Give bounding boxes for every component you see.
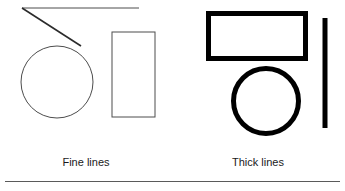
footer-divider xyxy=(5,181,340,182)
fine-diagonal-line xyxy=(22,8,81,46)
thick-rectangle xyxy=(209,14,306,59)
caption-fine-lines: Fine lines xyxy=(0,156,172,169)
fine-circle xyxy=(21,46,93,118)
thick-lines-group xyxy=(209,14,326,134)
fine-rectangle xyxy=(112,32,155,117)
caption-thick-lines: Thick lines xyxy=(172,156,344,169)
thick-circle xyxy=(234,69,299,134)
fine-lines-group xyxy=(21,8,155,118)
figure-canvas: Fine lines Thick lines xyxy=(0,0,345,191)
